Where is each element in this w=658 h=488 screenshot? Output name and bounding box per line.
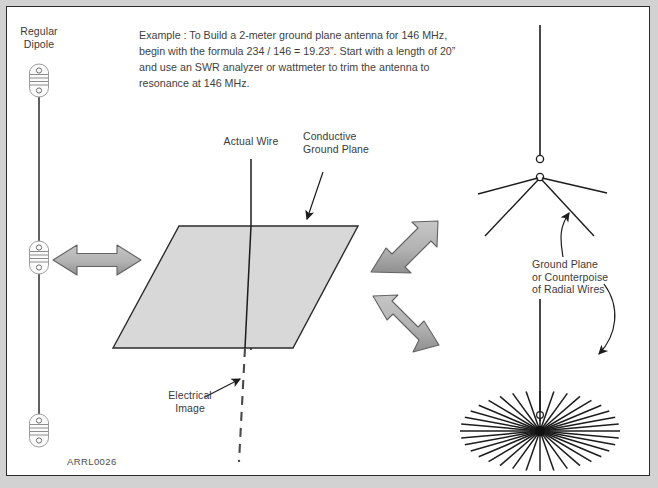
sloping-radials <box>478 178 607 236</box>
dipole-insulator-center <box>30 241 49 274</box>
radial-wire-ground-system <box>460 299 620 471</box>
label-actual-wire: Actual Wire <box>203 135 299 148</box>
figure-frame: Example : To Build a 2-meter ground plan… <box>6 6 650 476</box>
dipole-insulator-top <box>30 64 49 97</box>
example-note-text: Example : To Build a 2-meter ground plan… <box>139 27 461 91</box>
conductive-ground-plane-group <box>113 159 358 462</box>
ground-plane-label-pointer <box>561 213 569 257</box>
label-ground-plane-counterpoise: Ground Plane or Counterpoise of Radial W… <box>532 258 656 296</box>
figure-id-label: ARRL0026 <box>67 456 117 469</box>
ground-plane-parallelogram <box>113 226 358 348</box>
radial-star-center <box>535 426 545 436</box>
label-conductive-ground-plane: Conductive Ground Plane <box>303 130 415 155</box>
conductive-ground-plane-pointer <box>307 172 323 219</box>
figure-page: Example : To Build a 2-meter ground plan… <box>0 0 658 488</box>
feedpoint-insulator <box>536 155 543 162</box>
plane-to-groundplane-arrow-upper <box>371 221 438 273</box>
ground-plane-vertical-antenna <box>478 25 607 236</box>
electrical-image-dashed-line <box>239 348 245 462</box>
label-regular-dipole: Regular Dipole <box>11 25 67 50</box>
plane-to-radials-arrow-lower <box>373 295 439 352</box>
radial-hub <box>536 173 543 180</box>
dipole-insulator-bottom <box>30 414 49 447</box>
regular-dipole-assembly <box>30 64 49 447</box>
label-electrical-image: Electrical Image <box>153 389 227 414</box>
dipole-to-plane-arrow <box>53 245 141 275</box>
